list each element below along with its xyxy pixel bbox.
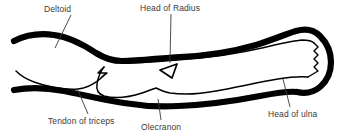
label-deltoid: Deltoid xyxy=(44,4,71,14)
label-head-of-ulna: Head of ulna xyxy=(268,109,317,119)
lower-arm-contour xyxy=(14,88,297,106)
label-head-of-radius: Head of Radius xyxy=(140,3,200,13)
label-tendon-of-triceps: Tendon of triceps xyxy=(48,116,114,126)
label-olecranon: Olecranon xyxy=(141,122,181,132)
head-of-radius-arrowhead-icon xyxy=(160,64,177,78)
anatomy-figure: Deltoid Head of Radius Tendon of triceps… xyxy=(0,0,348,139)
leader-line-deltoid xyxy=(55,15,71,48)
leader-line-olecranon xyxy=(158,99,161,120)
upper-arm-contour xyxy=(14,30,331,93)
ulna-head-jagged-contour xyxy=(308,43,318,77)
